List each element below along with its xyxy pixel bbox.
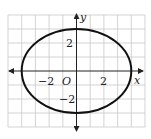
x-tick-neg2: −2	[38, 75, 54, 88]
y-tick-2: 2	[66, 37, 73, 50]
y-axis-label: y	[79, 11, 87, 24]
x-tick-2: 2	[100, 75, 107, 88]
y-tick-neg2: −2	[59, 93, 75, 106]
origin-label: O	[62, 75, 71, 88]
ellipse-graph: y x O −2 2 2 −2	[0, 0, 151, 139]
x-axis-label: x	[134, 74, 141, 87]
